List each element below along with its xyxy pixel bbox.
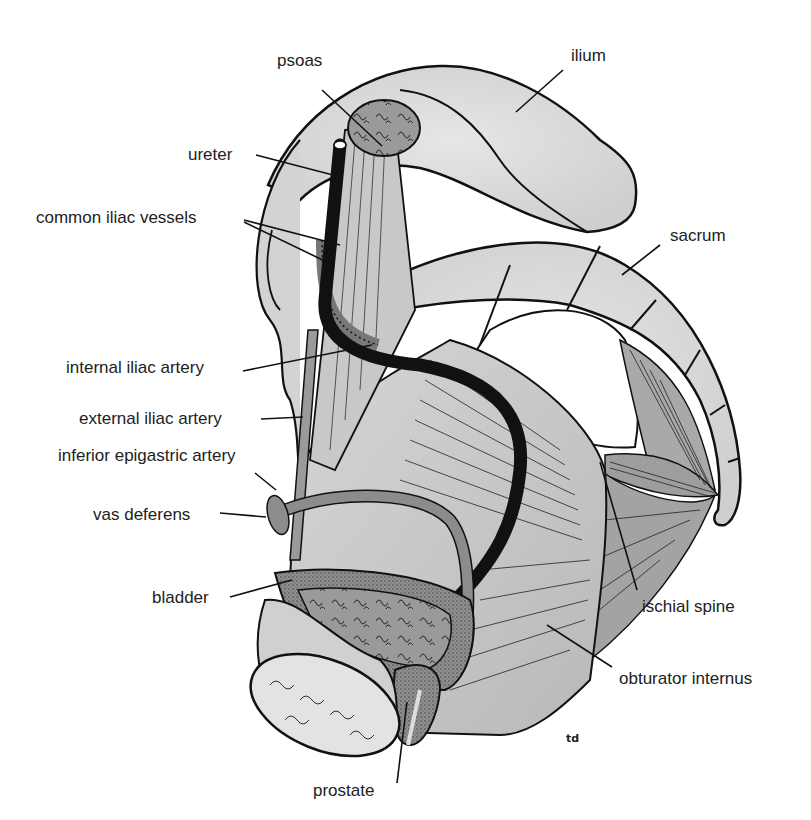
label-vas-deferens: vas deferens xyxy=(93,506,190,523)
label-bladder: bladder xyxy=(152,589,209,606)
anatomy-figure: psoas ilium ureter common iliac vessels … xyxy=(0,0,811,820)
label-external-iliac-artery: external iliac artery xyxy=(79,410,222,427)
leader-line-vas-deferens xyxy=(220,513,266,517)
label-internal-iliac-artery: internal iliac artery xyxy=(66,359,204,376)
artist-signature: td xyxy=(566,732,579,745)
label-ilium: ilium xyxy=(571,47,606,64)
ureter-opening xyxy=(334,141,346,149)
label-common-iliac-vessels: common iliac vessels xyxy=(36,209,197,226)
label-prostate: prostate xyxy=(313,782,374,799)
label-ischial-spine: ischial spine xyxy=(642,598,735,615)
label-inferior-epigastric-artery: inferior epigastric artery xyxy=(58,447,236,464)
label-obturator-internus: obturator internus xyxy=(619,670,752,687)
leader-line-sacrum xyxy=(622,245,660,275)
pelvic-rim xyxy=(257,140,300,470)
label-psoas: psoas xyxy=(277,52,322,69)
label-sacrum: sacrum xyxy=(670,227,726,244)
leader-line-inferior-epigastric-artery xyxy=(255,473,276,490)
label-ureter: ureter xyxy=(188,146,232,163)
